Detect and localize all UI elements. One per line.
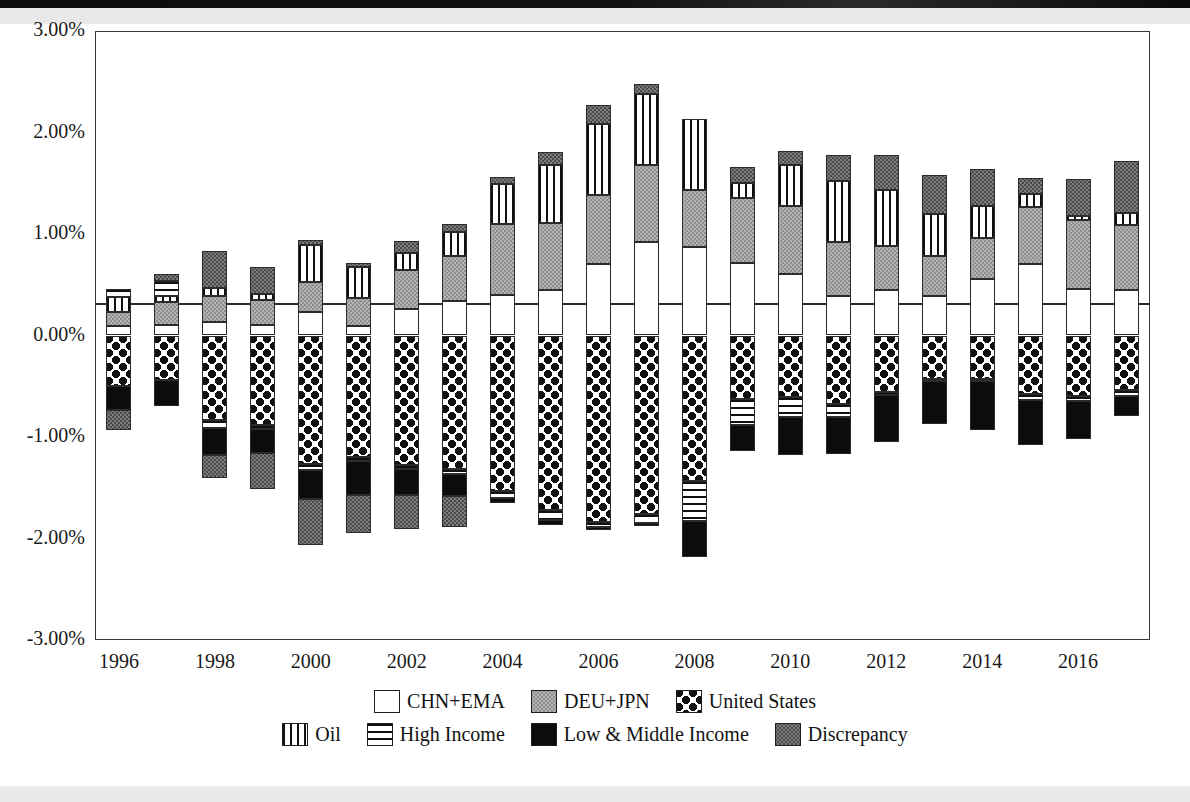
bar-segment-oil <box>442 232 467 256</box>
bar-segment-deu <box>586 195 611 264</box>
bar-segment-usa <box>1114 336 1139 391</box>
bar-segment-usa <box>778 336 803 398</box>
bar-segment-disc <box>1018 178 1043 194</box>
bar-segment-deu <box>106 312 131 326</box>
bar-segment-low <box>730 425 755 451</box>
bar-segment-high_neg <box>730 399 755 424</box>
bar-segment-oil <box>394 253 419 269</box>
x-tick-label: 2014 <box>937 650 1027 673</box>
bar-segment-deu <box>202 296 227 322</box>
bar-segment-disc_neg <box>250 453 275 489</box>
bar-segment-deu <box>778 206 803 274</box>
bar-column <box>394 31 419 640</box>
bar-segment-chn <box>154 325 179 335</box>
bar-column <box>634 31 659 640</box>
bar-column <box>106 31 131 640</box>
bar-segment-high_pos <box>154 281 179 296</box>
bar-segment-chn <box>586 264 611 335</box>
bar-column <box>490 31 515 640</box>
bar-segment-disc_neg <box>442 496 467 527</box>
bar-column <box>970 31 995 640</box>
bar-segment-usa <box>730 336 755 400</box>
x-tick-label: 2002 <box>362 650 452 673</box>
bar-segment-disc_neg <box>346 495 371 534</box>
bar-segment-usa <box>586 336 611 523</box>
legend-swatch-icon <box>367 723 393 746</box>
legend-label: Low & Middle Income <box>564 723 749 746</box>
bar-segment-low <box>1066 401 1091 439</box>
bar-segment-oil <box>586 124 611 195</box>
bar-segment-chn <box>634 242 659 335</box>
bar-segment-usa <box>874 336 899 393</box>
bar-segment-chn <box>202 322 227 335</box>
bar-segment-deu <box>634 165 659 242</box>
bar-segment-oil <box>874 190 899 246</box>
bar-segment-chn <box>874 290 899 336</box>
bar-segment-chn <box>538 290 563 336</box>
bar-segment-disc <box>1066 179 1091 216</box>
bar-segment-oil <box>778 165 803 206</box>
bar-segment-usa <box>1018 336 1043 395</box>
y-tick-label: 2.00% <box>0 120 85 143</box>
bar-segment-usa <box>442 336 467 470</box>
bar-segment-deu <box>298 282 323 312</box>
bar-segment-low <box>106 386 131 409</box>
x-tick-label: 1996 <box>74 650 164 673</box>
bar-segment-disc <box>1114 161 1139 213</box>
chart-figure: 3.00%2.00%1.00%0.00%-1.00%-2.00%-3.00% 1… <box>0 0 1190 802</box>
y-tick-label: 1.00% <box>0 221 85 244</box>
bar-segment-oil <box>154 296 179 302</box>
bar-segment-chn <box>778 274 803 336</box>
bar-column <box>922 31 947 640</box>
bar-segment-disc <box>778 151 803 165</box>
bar-segment-low <box>826 417 851 455</box>
bar-column <box>826 31 851 640</box>
bar-segment-deu <box>250 300 275 325</box>
bar-column <box>586 31 611 640</box>
bar-segment-low <box>298 470 323 498</box>
bar-segment-oil <box>1018 194 1043 206</box>
bar-segment-low <box>922 381 947 424</box>
bar-segment-oil <box>970 206 995 238</box>
bar-segment-oil <box>1114 213 1139 225</box>
y-tick-label: -3.00% <box>0 627 85 650</box>
bar-segment-usa <box>298 336 323 465</box>
bar-segment-deu <box>970 238 995 279</box>
bar-segment-oil <box>682 119 707 190</box>
bar-segment-high_neg <box>202 420 227 428</box>
bar-segment-usa <box>394 336 419 466</box>
bar-segment-disc <box>490 177 515 184</box>
x-tick-label: 2000 <box>266 650 356 673</box>
legend-swatch-icon <box>282 723 308 746</box>
legend-item: Oil <box>282 723 341 746</box>
bar-segment-disc <box>970 169 995 206</box>
bar-segment-low <box>250 429 275 453</box>
bar-segment-disc <box>826 155 851 181</box>
bar-column <box>682 31 707 640</box>
bar-segment-disc_neg <box>106 410 131 430</box>
bar-segment-disc <box>874 155 899 191</box>
bar-segment-low <box>1114 396 1139 415</box>
bar-segment-disc <box>634 84 659 94</box>
bar-column <box>346 31 371 640</box>
bar-segment-low <box>538 520 563 525</box>
bar-segment-deu <box>682 190 707 247</box>
bar-column <box>874 31 899 640</box>
x-tick-label: 2006 <box>554 650 644 673</box>
bar-column <box>730 31 755 640</box>
bar-segment-chn <box>1114 290 1139 336</box>
bar-segment-usa <box>826 336 851 404</box>
bar-segment-deu <box>922 256 947 296</box>
bar-segment-usa <box>970 336 995 380</box>
bar-segment-oil <box>538 165 563 223</box>
x-tick-label: 2012 <box>841 650 931 673</box>
bar-segment-chn <box>298 312 323 335</box>
y-tick-label: 3.00% <box>0 18 85 41</box>
bar-segment-disc <box>346 263 371 267</box>
legend-item: Low & Middle Income <box>531 723 749 746</box>
bar-column <box>250 31 275 640</box>
bar-segment-oil <box>298 245 323 282</box>
bar-segment-deu <box>1018 207 1043 265</box>
x-tick-label: 2016 <box>1033 650 1123 673</box>
x-tick-label: 2010 <box>745 650 835 673</box>
